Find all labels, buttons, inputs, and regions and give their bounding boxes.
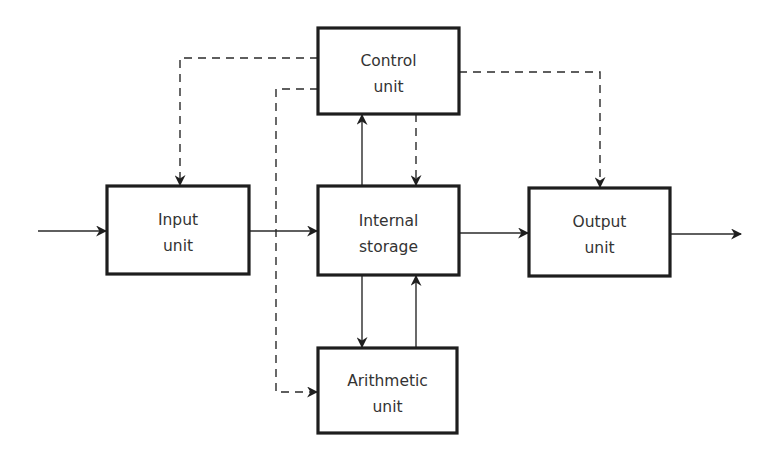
input-unit-label-line2: unit [163, 237, 193, 255]
arithmetic-unit-box: Arithmetic unit [318, 348, 457, 433]
arrow-control-to-arithmetic [276, 89, 318, 392]
control-unit-box: Control unit [318, 28, 459, 114]
input-unit-box: Input unit [107, 186, 249, 274]
internal-storage-label-line1: Internal [359, 212, 419, 230]
arithmetic-unit-label-line2: unit [372, 398, 402, 416]
control-unit-label-line1: Control [360, 52, 416, 70]
output-unit-box: Output unit [529, 188, 670, 276]
arrow-control-to-output [459, 72, 600, 187]
control-unit-label-line2: unit [373, 78, 403, 96]
output-unit-label-line1: Output [573, 213, 627, 231]
arithmetic-unit-label-line1: Arithmetic [347, 372, 428, 390]
output-unit-label-line2: unit [584, 239, 614, 257]
arrow-control-to-input [180, 58, 318, 185]
internal-storage-label-line2: storage [359, 238, 418, 256]
block-diagram: Control unit Input unit Internal storage… [0, 0, 772, 457]
internal-storage-box: Internal storage [318, 186, 459, 275]
input-unit-label-line1: Input [158, 211, 198, 229]
